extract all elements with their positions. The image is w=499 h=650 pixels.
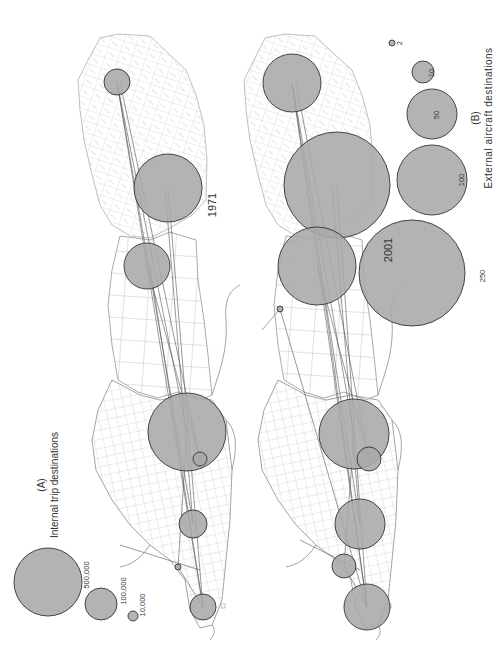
legend-a-label-10000: 10,000 bbox=[138, 594, 147, 617]
destination-circle-2001-4 bbox=[357, 447, 381, 471]
destination-circle-2001-7 bbox=[344, 584, 390, 630]
destination-circle-1971-4 bbox=[193, 452, 207, 466]
legend-b-label-50: 50 bbox=[432, 111, 441, 119]
destination-circle-1971-5 bbox=[179, 510, 207, 538]
destination-circle-2001-1 bbox=[284, 132, 390, 238]
legend-b-circle-2 bbox=[389, 40, 395, 46]
panel-a-label: (A) bbox=[36, 478, 47, 491]
legend-b-label-10: 10 bbox=[427, 69, 436, 77]
legend-a-circle-100000 bbox=[85, 588, 117, 620]
destination-circle-2001-5 bbox=[335, 499, 385, 549]
destination-circle-2001-2 bbox=[278, 227, 356, 305]
legend-a-circle-500000 bbox=[14, 548, 82, 616]
figure-container: 1971 2001 (A) Internal trip destinations… bbox=[0, 0, 499, 650]
legend-a-label-100000: 100,000 bbox=[119, 577, 128, 604]
destination-circle-1971-1 bbox=[134, 154, 202, 222]
destination-circle-1971-0 bbox=[104, 69, 130, 95]
destination-circle-1971-6 bbox=[175, 564, 181, 570]
legend-a-label-500000: 500,000 bbox=[82, 561, 91, 588]
island-1971 bbox=[221, 604, 225, 608]
panel-b-title: External aircraft destinations bbox=[483, 47, 494, 188]
panel-a-title: Internal trip destinations bbox=[49, 432, 60, 538]
legend-b-label-250: 250 bbox=[478, 270, 487, 283]
destination-circle-1971-7 bbox=[190, 594, 216, 620]
destination-circle-2001-0 bbox=[263, 54, 321, 112]
destination-circle-1971-2 bbox=[124, 243, 170, 289]
year-label-2001: 2001 bbox=[382, 238, 394, 262]
panel-b-label: (B) bbox=[470, 111, 481, 124]
legend-b-label-100: 100 bbox=[457, 174, 466, 187]
destination-circle-2001-8 bbox=[277, 306, 283, 312]
map-figure: 1971 2001 (A) Internal trip destinations… bbox=[0, 0, 499, 650]
map-1971 bbox=[78, 34, 240, 640]
legend-b-circle-250 bbox=[359, 220, 465, 326]
legend-a-circle-10000 bbox=[128, 611, 138, 621]
destination-circle-1971-3 bbox=[148, 393, 226, 471]
year-label-1971: 1971 bbox=[206, 193, 218, 217]
map-2001 bbox=[244, 34, 406, 640]
destination-circle-2001-6 bbox=[332, 554, 356, 578]
legend-b-label-2: 2 bbox=[396, 41, 403, 45]
